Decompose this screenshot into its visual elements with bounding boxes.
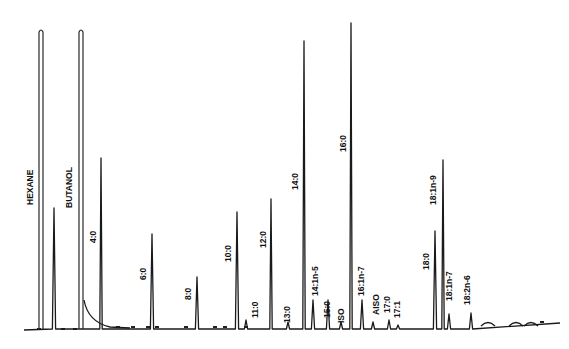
peak-label: 4:0 [88,230,98,243]
event-mark [223,326,227,328]
peak-label: 10:0 [223,245,233,262]
peak-label: 18:1n-9 [428,175,438,205]
peak-label: 17:0 [382,296,392,313]
solvent-peak [79,30,83,329]
peak-label: 15:0 [322,301,332,318]
event-mark [213,326,217,328]
peak-label: 6:0 [138,267,148,280]
event-mark [146,326,150,328]
chromatogram: HEXANEBUTANOL4:06:08:010:011:012:013:014… [0,0,569,349]
peak-label: AISO [371,294,381,315]
peak-label: 13:0 [282,306,292,323]
peak-label: 16:1n-7 [356,266,366,296]
peak-label: HEXANE [25,169,35,205]
peak-label: 14:0 [290,173,300,190]
event-mark [155,326,159,328]
event-mark [131,326,135,328]
peak-label: 11:0 [250,301,260,318]
peak-label: 17:1 [392,301,402,318]
peak-label: 18:0 [421,253,431,270]
event-mark [184,326,188,328]
peak-label: 16:0 [338,135,348,152]
broad-hump [481,323,495,327]
peak-label: 14:1n-5 [310,266,320,296]
solvent-tail [84,300,130,328]
peak-labels: HEXANEBUTANOL4:06:08:010:011:012:013:014… [25,135,472,323]
peak-label: 18:2n-6 [462,275,472,305]
event-mark [540,321,544,323]
solvent-peak [39,30,43,329]
peak-label: ISO [336,308,346,323]
peak-label: BUTANOL [64,167,74,208]
peak-label: 18:1n-7 [444,271,454,301]
peak-label: 8:0 [183,287,193,300]
peak-label: 12:0 [258,231,268,248]
